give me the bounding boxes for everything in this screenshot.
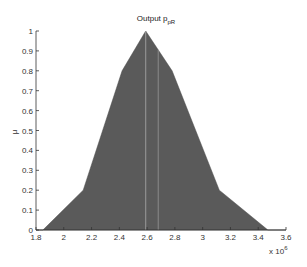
x-tick-label: 3.6 [280,233,292,242]
x-tick-label: 2.6 [142,233,154,242]
x-tick-label: 1.8 [30,233,42,242]
y-tick-label: 0.9 [22,47,34,56]
y-tick-label: 1 [29,27,34,36]
plot-area [36,31,286,230]
x-tick-label: 3.4 [253,233,265,242]
x-tick-label: 2.8 [169,233,181,242]
y-tick-label: 0.7 [22,87,34,96]
x-tick-label: 3.2 [225,233,237,242]
y-tick-label: 0.5 [22,127,34,136]
y-tick-label: 0.3 [22,166,34,175]
x-tick-label: 2.4 [114,233,126,242]
y-tick-label: 0.2 [22,186,34,195]
y-axis-label: μ [10,129,19,134]
x-tick-label: 2 [62,233,67,242]
membership-area [36,31,286,230]
x-multiplier-label: x 106 [269,245,288,256]
chart-title: Output ppR [137,14,176,25]
x-tick-label: 3 [200,233,205,242]
y-tick-label: 0.8 [22,67,34,76]
y-tick-label: 0.4 [22,146,34,155]
membership-chart: 00.10.20.30.40.50.60.70.80.911.822.22.42… [0,0,307,267]
y-tick-label: 0.1 [22,206,34,215]
x-tick-label: 2.2 [86,233,98,242]
y-tick-label: 0.6 [22,107,34,116]
